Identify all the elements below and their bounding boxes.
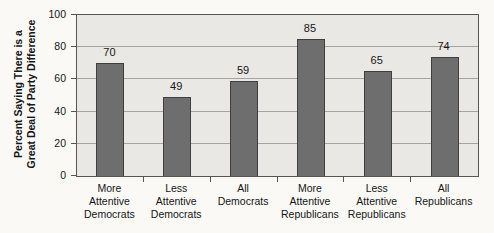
bar-4	[297, 39, 325, 176]
y-axis-title-line2: Great Deal of Party Difference	[25, 9, 38, 179]
x-tick-3	[277, 177, 278, 182]
y-tick-label-100: 100	[36, 9, 66, 19]
gridline-20	[77, 143, 478, 144]
bar-3	[230, 81, 258, 176]
category-label-4: More Attentive Republicans	[279, 182, 342, 221]
category-label-5: Less Attentive Republicans	[345, 182, 408, 221]
bar-6	[431, 57, 459, 176]
x-tick-4	[343, 177, 344, 182]
y-tick-label-60: 60	[36, 73, 66, 83]
category-label-2: Less Attentive Democrats	[145, 182, 208, 221]
x-tick-2	[210, 177, 211, 182]
y-tick-0	[71, 175, 76, 176]
y-tick-label-40: 40	[36, 106, 66, 116]
plot-area	[76, 14, 479, 177]
bar-value-3: 59	[210, 65, 277, 76]
y-tick-60	[71, 78, 76, 79]
y-tick-20	[71, 143, 76, 144]
y-tick-label-0: 0	[36, 170, 66, 180]
y-tick-40	[71, 111, 76, 112]
y-tick-label-20: 20	[36, 138, 66, 148]
bar-2	[163, 97, 191, 176]
bar-value-2: 49	[143, 81, 210, 92]
y-axis-title-line1: Percent Saying There is a	[12, 9, 25, 179]
x-tick-5	[410, 177, 411, 182]
y-tick-100	[71, 14, 76, 15]
bar-chart: Percent Saying There is a Great Deal of …	[0, 0, 494, 233]
bar-1	[96, 63, 124, 176]
x-tick-1	[143, 177, 144, 182]
category-label-3: All Democrats	[212, 182, 275, 208]
category-label-6: All Republicans	[412, 182, 475, 208]
category-label-1: More Attentive Democrats	[78, 182, 141, 221]
y-tick-label-80: 80	[36, 41, 66, 51]
bar-value-1: 70	[76, 47, 143, 58]
gridline-60	[77, 78, 478, 79]
bar-5	[364, 71, 392, 176]
gridline-40	[77, 111, 478, 112]
y-axis-title: Percent Saying There is a Great Deal of …	[12, 9, 40, 179]
bar-value-4: 85	[277, 23, 344, 34]
bar-value-6: 74	[410, 41, 477, 52]
bar-value-5: 65	[343, 55, 410, 66]
